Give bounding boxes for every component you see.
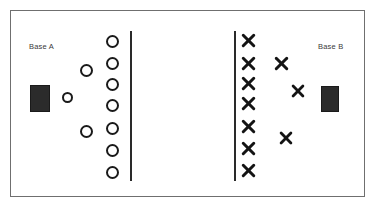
circle-column-4 xyxy=(106,99,119,112)
diagram-frame xyxy=(10,10,365,197)
cross-column-2 xyxy=(241,56,256,71)
circle-column-5 xyxy=(106,122,119,135)
cross-column-1 xyxy=(241,33,256,48)
cross-scatter-3 xyxy=(279,131,293,145)
cross-column-7 xyxy=(241,163,256,178)
cross-column-6 xyxy=(241,141,256,156)
circle-column-1 xyxy=(106,35,119,48)
cross-scatter-2 xyxy=(291,84,305,98)
circle-column-3 xyxy=(106,78,119,91)
base-a-label: Base A xyxy=(29,42,54,51)
circle-column-2 xyxy=(106,57,119,70)
cross-scatter-1 xyxy=(274,56,289,71)
cross-column-4 xyxy=(241,96,256,111)
cross-column-3 xyxy=(241,76,256,91)
circle-column-7 xyxy=(106,166,119,179)
right-divider-line xyxy=(234,31,236,181)
base-a-rectangle xyxy=(30,85,50,112)
cross-column-5 xyxy=(241,119,256,134)
circle-scatter-3 xyxy=(80,125,93,138)
circle-scatter-1 xyxy=(80,64,93,77)
base-b-label: Base B xyxy=(318,42,343,51)
circle-scatter-2 xyxy=(62,92,73,103)
base-b-rectangle xyxy=(321,86,339,112)
left-divider-line xyxy=(130,31,132,181)
circle-column-6 xyxy=(106,144,119,157)
diagram-canvas: Base ABase B xyxy=(0,0,377,207)
